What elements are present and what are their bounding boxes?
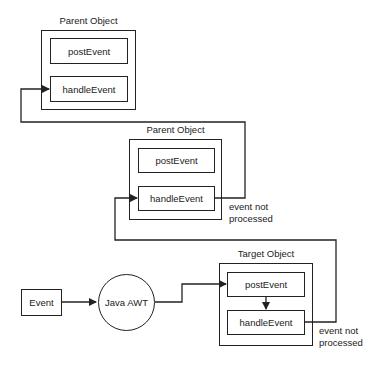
parent-object-1-title: Parent Object [41,15,136,26]
event-node: Event [21,289,62,316]
target-object-title: Target Object [219,248,313,259]
note-line-2: processed [319,337,363,349]
parent-object-1-handle-event: handleEvent [50,76,128,102]
note-line-1: event not [229,201,273,213]
java-awt-node: Java AWT [98,274,155,331]
parent-object-1-post-event: postEvent [50,38,128,64]
note-line-1: event not [319,325,363,337]
target-object-note: event not processed [319,325,363,349]
target-object-post-event: postEvent [227,272,305,297]
parent-object-2-title: Parent Object [129,124,222,135]
parent-object-2-post-event: postEvent [138,148,215,173]
arrow-awt-to-target [155,284,226,302]
note-line-2: processed [229,213,273,225]
parent-object-2-note: event not processed [229,201,273,225]
parent-object-2-handle-event: handleEvent [138,186,215,211]
target-object-handle-event: handleEvent [227,310,305,335]
